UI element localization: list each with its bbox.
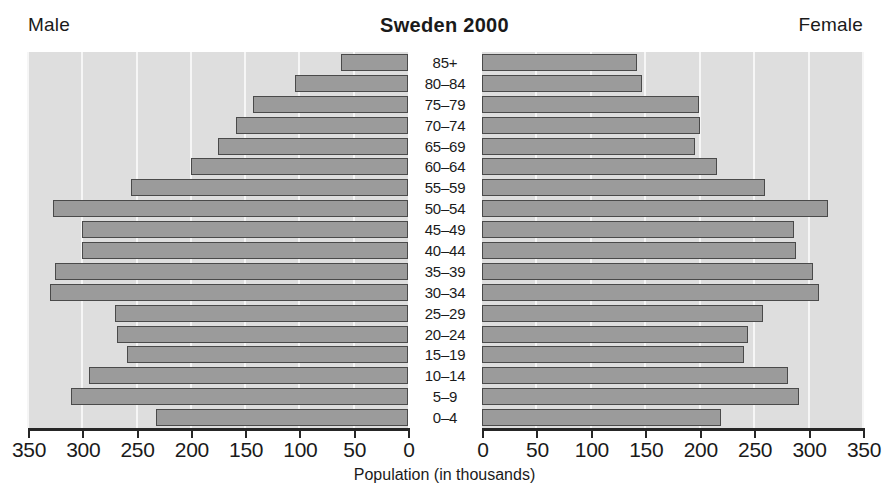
female-bar — [482, 200, 828, 217]
age-group-label: 30–34 — [408, 285, 482, 300]
male-bar — [117, 326, 408, 343]
axis-tick-label: 150 — [616, 438, 676, 462]
female-bar — [482, 263, 813, 280]
female-plot-panel — [482, 52, 863, 428]
male-bar — [218, 138, 408, 155]
age-group-label: 70–74 — [408, 118, 482, 133]
female-axis-line — [482, 428, 864, 431]
gridline-350 — [862, 52, 864, 428]
axis-tick — [28, 428, 30, 438]
female-bar — [482, 346, 744, 363]
axis-tick-label: 100 — [562, 438, 622, 462]
axis-tick-label: 350 — [0, 438, 59, 462]
axis-tick — [482, 428, 484, 438]
axis-tick-label: 50 — [507, 438, 567, 462]
axis-tick-label: 150 — [216, 438, 276, 462]
age-group-label: 75–79 — [408, 97, 482, 112]
age-group-label: 65–69 — [408, 139, 482, 154]
male-bar — [115, 305, 408, 322]
male-bar — [156, 409, 408, 426]
female-bar — [482, 326, 748, 343]
axis-tick-label: 200 — [671, 438, 731, 462]
axis-tick-label: 250 — [108, 438, 168, 462]
axis-tick-label: 0 — [453, 438, 513, 462]
axis-tick-label: 0 — [379, 438, 439, 462]
axis-tick-label: 250 — [725, 438, 785, 462]
male-bar — [82, 221, 408, 238]
age-group-label: 20–24 — [408, 327, 482, 342]
axis-tick — [299, 428, 301, 438]
female-bar — [482, 117, 700, 134]
female-bar — [482, 367, 788, 384]
axis-tick-label: 50 — [325, 438, 385, 462]
female-bar — [482, 179, 765, 196]
female-bar — [482, 409, 721, 426]
female-side-label: Female — [798, 14, 863, 36]
axis-tick — [245, 428, 247, 438]
male-bar — [127, 346, 408, 363]
age-group-label: 5–9 — [408, 389, 482, 404]
axis-tick — [536, 428, 538, 438]
age-group-label: 25–29 — [408, 306, 482, 321]
male-bar — [191, 158, 408, 175]
age-group-label: 45–49 — [408, 222, 482, 237]
axis-tick — [591, 428, 593, 438]
age-group-label: 55–59 — [408, 180, 482, 195]
population-pyramid-chart: Male Sweden 2000 Female 85+80–8475–7970–… — [0, 0, 889, 498]
axis-tick — [137, 428, 139, 438]
age-group-label: 15–19 — [408, 347, 482, 362]
age-group-label: 10–14 — [408, 368, 482, 383]
male-bar — [131, 179, 408, 196]
axis-tick-label: 200 — [162, 438, 222, 462]
axis-tick — [863, 428, 865, 438]
female-bar — [482, 242, 796, 259]
male-bar — [71, 388, 408, 405]
chart-header: Male Sweden 2000 Female — [0, 14, 889, 44]
axis-tick — [645, 428, 647, 438]
age-group-label: 50–54 — [408, 201, 482, 216]
male-axis-line — [28, 428, 409, 431]
female-bar — [482, 96, 699, 113]
age-group-label: 40–44 — [408, 243, 482, 258]
male-bar — [53, 200, 408, 217]
male-bar — [295, 75, 408, 92]
gridline-300 — [81, 52, 83, 428]
female-bar — [482, 75, 642, 92]
female-bar — [482, 284, 819, 301]
gridline-300 — [808, 52, 810, 428]
age-group-label: 80–84 — [408, 76, 482, 91]
male-plot-panel — [28, 52, 408, 428]
axis-tick — [354, 428, 356, 438]
axis-tick — [82, 428, 84, 438]
age-group-axis: 85+80–8475–7970–7465–6960–6455–5950–5445… — [408, 52, 482, 428]
age-group-label: 85+ — [408, 55, 482, 70]
male-bar — [341, 54, 408, 71]
axis-tick-label: 350 — [834, 438, 889, 462]
axis-tick — [191, 428, 193, 438]
axis-tick — [700, 428, 702, 438]
female-bar — [482, 138, 695, 155]
male-bar — [236, 117, 408, 134]
male-bar — [89, 367, 408, 384]
axis-tick-label: 100 — [270, 438, 330, 462]
axis-tick — [754, 428, 756, 438]
axis-tick-label: 300 — [780, 438, 840, 462]
male-bar — [50, 284, 408, 301]
age-group-label: 0–4 — [408, 410, 482, 425]
age-group-label: 60–64 — [408, 159, 482, 174]
axis-tick — [809, 428, 811, 438]
female-bar — [482, 388, 799, 405]
axis-tick — [408, 428, 410, 438]
chart-title: Sweden 2000 — [0, 14, 889, 37]
male-bar — [55, 263, 408, 280]
age-group-label: 35–39 — [408, 264, 482, 279]
gridline-350 — [27, 52, 29, 428]
axis-tick-label: 300 — [53, 438, 113, 462]
male-bar — [253, 96, 408, 113]
x-axis-title: Population (in thousands) — [0, 466, 889, 484]
female-bar — [482, 54, 637, 71]
female-bar — [482, 221, 794, 238]
male-bar — [82, 242, 408, 259]
female-bar — [482, 305, 763, 322]
female-bar — [482, 158, 717, 175]
